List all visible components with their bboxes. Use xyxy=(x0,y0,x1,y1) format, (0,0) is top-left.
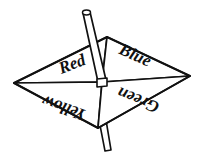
spindle-hub xyxy=(97,78,107,87)
spindle-top-cap xyxy=(83,10,91,15)
spinner-illustration: Red Blue Yellow Green xyxy=(0,0,202,164)
